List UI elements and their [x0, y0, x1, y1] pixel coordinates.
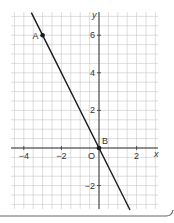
grid: [11, 12, 158, 209]
point-label-b: B: [102, 136, 108, 146]
x-axis-label: x: [153, 149, 159, 159]
series-layer: [31, 13, 130, 210]
y-axis-label: y: [91, 10, 97, 20]
x-tick-label: −4: [19, 151, 29, 161]
x-tick-label: −2: [56, 151, 66, 161]
graph-figure: −4−22642−2 x y O AB: [0, 0, 174, 223]
y-tick-label: 4: [90, 68, 95, 78]
y-tick-label: −2: [85, 181, 95, 191]
frame-border: [0, 210, 173, 216]
origin-label: O: [88, 151, 95, 161]
series-line: [31, 13, 130, 210]
point-b: [97, 146, 102, 151]
chart-svg: −4−22642−2 x y O AB: [0, 0, 174, 223]
point-a: [40, 33, 45, 38]
y-tick-label: 6: [90, 30, 95, 40]
y-tick-label: 2: [90, 105, 95, 115]
x-tick-label: 2: [134, 151, 139, 161]
point-label-a: A: [33, 31, 39, 41]
